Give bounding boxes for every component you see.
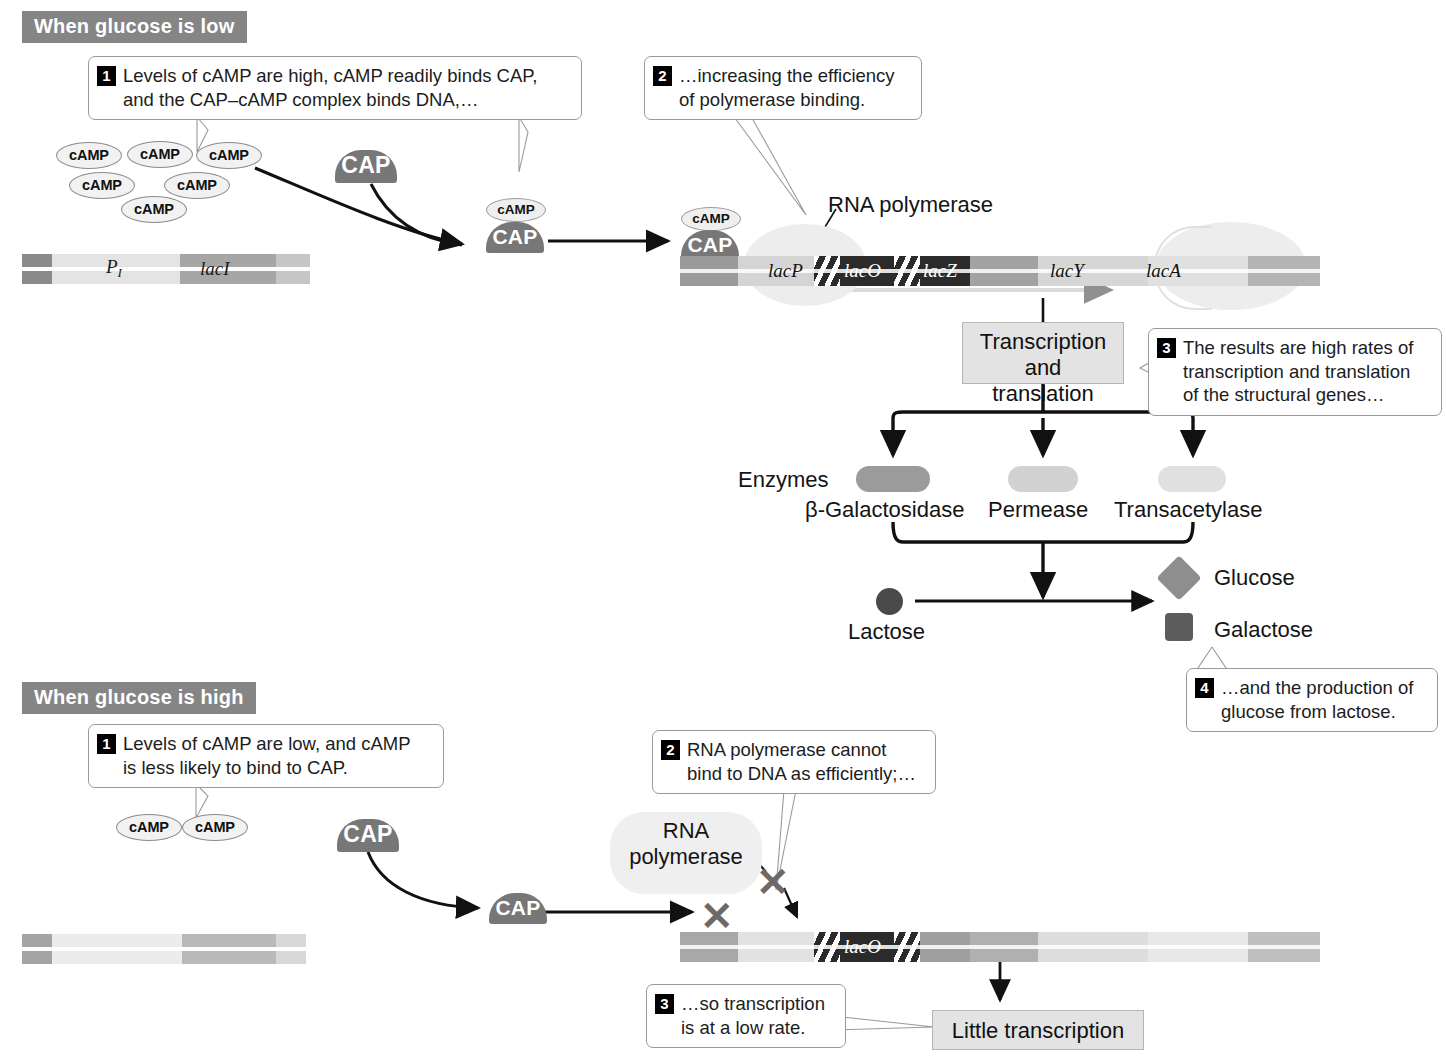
x-mark-cap-blocked: ✕ bbox=[700, 896, 734, 936]
camp-molecule: cAMP bbox=[69, 172, 135, 199]
camp-bound-2: cAMP bbox=[681, 207, 741, 231]
rna-polymerase-label: RNA polymerase bbox=[828, 192, 993, 218]
little-transcription-box: Little transcription bbox=[932, 1010, 1144, 1050]
laci-gene-label: lacI bbox=[200, 258, 230, 280]
operon-label-laca: lacA bbox=[1146, 260, 1181, 282]
cap-bound-1: CAP bbox=[486, 222, 544, 253]
banner-glucose-low: When glucose is low bbox=[22, 11, 247, 43]
dna-laci-region: PI lacI bbox=[22, 254, 310, 284]
cap-protein-free: CAP bbox=[335, 150, 397, 183]
dna-laci-region-high bbox=[22, 934, 306, 964]
cap-protein-bound-high: CAP bbox=[489, 893, 547, 924]
step-number: 1 bbox=[97, 734, 116, 754]
dna-lac-operon-low: lacP lacO lacZ lacY lacA bbox=[680, 256, 1320, 286]
callout-high-2: 2 RNA polymerase cannot bind to DNA as e… bbox=[652, 730, 936, 794]
operon-label-lacp: lacP bbox=[768, 260, 803, 282]
callout-text: Levels of cAMP are low, and cAMP is less… bbox=[123, 732, 411, 779]
operon-label-lacy: lacY bbox=[1050, 260, 1084, 282]
camp-molecule: cAMP bbox=[127, 141, 193, 168]
step-number: 1 bbox=[97, 66, 116, 86]
camp-molecule: cAMP bbox=[56, 142, 122, 169]
callout-text: …so transcription is at a low rate. bbox=[681, 992, 825, 1039]
enzyme-label-permease: Permease bbox=[988, 497, 1088, 523]
rna-polymerase-label-high: RNA polymerase bbox=[612, 818, 760, 871]
step-number: 4 bbox=[1195, 678, 1214, 698]
step-number: 2 bbox=[661, 740, 680, 760]
camp-molecule: cAMP bbox=[196, 142, 262, 169]
enzyme-label-transacetylase: Transacetylase bbox=[1114, 497, 1262, 523]
callout-high-1: 1 Levels of cAMP are low, and cAMP is le… bbox=[88, 724, 444, 788]
callout-text: Levels of cAMP are high, cAMP readily bi… bbox=[123, 64, 537, 111]
glucose-label: Glucose bbox=[1214, 565, 1295, 591]
glucose-molecule bbox=[1156, 555, 1201, 600]
enzymes-label: Enzymes bbox=[738, 467, 828, 493]
laci-promoter-label: PI bbox=[106, 256, 122, 282]
enzyme-shape-permease bbox=[1008, 466, 1078, 492]
callout-low-3: 3 The results are high rates of transcri… bbox=[1148, 328, 1442, 416]
operon-label-laco-high: lacO bbox=[844, 936, 881, 958]
dna-lac-operon-high: lacO bbox=[680, 932, 1320, 962]
enzyme-label-beta-galactosidase: β-Galactosidase bbox=[805, 497, 964, 523]
enzyme-shape-transacetylase bbox=[1158, 466, 1226, 492]
camp-molecule: cAMP bbox=[182, 814, 248, 841]
callout-text: RNA polymerase cannot bind to DNA as eff… bbox=[687, 738, 916, 785]
cap-protein-free-high: CAP bbox=[337, 819, 399, 852]
enzyme-shape-beta-galactosidase bbox=[856, 466, 930, 492]
callout-low-2: 2 …increasing the efficiency of polymera… bbox=[644, 56, 922, 120]
step-number: 3 bbox=[1157, 338, 1176, 358]
camp-molecule: cAMP bbox=[121, 196, 187, 223]
operon-label-lacz: lacZ bbox=[923, 260, 957, 282]
camp-molecule: cAMP bbox=[164, 172, 230, 199]
transcription-translation-box: Transcription and translation bbox=[962, 322, 1124, 384]
callout-low-1: 1 Levels of cAMP are high, cAMP readily … bbox=[88, 56, 582, 120]
callout-text: The results are high rates of transcript… bbox=[1183, 336, 1413, 407]
figure-canvas: When glucose is low 1 Levels of cAMP are… bbox=[0, 0, 1446, 1063]
step-number: 2 bbox=[653, 66, 672, 86]
camp-molecule: cAMP bbox=[116, 814, 182, 841]
callout-low-4: 4 …and the production of glucose from la… bbox=[1186, 668, 1438, 732]
galactose-molecule bbox=[1165, 613, 1193, 641]
lactose-molecule bbox=[876, 588, 903, 615]
camp-bound-1: cAMP bbox=[486, 198, 546, 222]
x-mark-polymerase-blocked: ✕ bbox=[756, 862, 790, 902]
callout-text: …and the production of glucose from lact… bbox=[1221, 676, 1413, 723]
lactose-label: Lactose bbox=[848, 619, 925, 645]
banner-glucose-high: When glucose is high bbox=[22, 682, 256, 714]
callout-text: …increasing the efficiency of polymerase… bbox=[679, 64, 895, 111]
step-number: 3 bbox=[655, 994, 674, 1014]
operon-label-laco: lacO bbox=[844, 260, 881, 282]
galactose-label: Galactose bbox=[1214, 617, 1313, 643]
callout-high-3: 3 …so transcription is at a low rate. bbox=[646, 984, 846, 1048]
